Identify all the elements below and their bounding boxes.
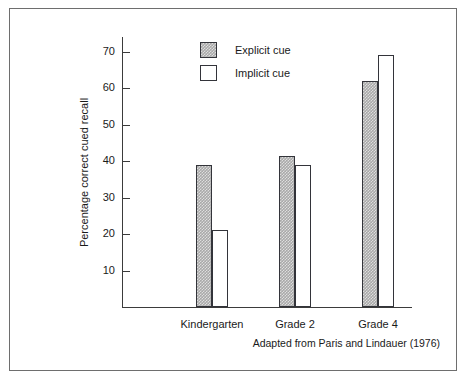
source-note: Adapted from Paris and Lindauer (1976) xyxy=(253,336,440,350)
y-tick-label: 20 xyxy=(103,226,115,241)
figure-frame: Percentage correct cued recall Explicit … xyxy=(9,8,457,371)
x-axis-line xyxy=(122,307,412,308)
y-tick-label: 60 xyxy=(103,80,115,95)
bar-grade-2-implicit xyxy=(295,165,311,307)
bar-grade-2-explicit xyxy=(279,156,295,307)
y-tick-label: 30 xyxy=(103,190,115,205)
y-axis-title: Percentage correct cued recall xyxy=(76,37,92,308)
y-tick-30: 30 xyxy=(122,198,130,199)
y-tick-10: 10 xyxy=(122,271,130,272)
bar-grade-4-implicit xyxy=(378,55,394,307)
y-tick-label: 40 xyxy=(103,153,115,168)
x-label-kindergarten: Kindergarten xyxy=(181,317,244,331)
y-tick-50: 50 xyxy=(122,125,130,126)
y-tick-mark xyxy=(123,161,130,162)
y-tick-mark xyxy=(123,198,130,199)
plot-area: 10203040506070 KindergartenGrade 2Grade … xyxy=(122,37,412,308)
y-tick-label: 10 xyxy=(103,263,115,278)
bar-group-kindergarten xyxy=(196,37,228,307)
y-tick-mark xyxy=(123,125,130,126)
y-tick-mark xyxy=(123,52,130,53)
y-tick-40: 40 xyxy=(122,161,130,162)
y-tick-mark xyxy=(123,234,130,235)
y-tick-mark xyxy=(123,271,130,272)
x-label-grade-2: Grade 2 xyxy=(275,317,315,331)
bar-grade-4-explicit xyxy=(362,81,378,307)
y-tick-label: 70 xyxy=(103,44,115,59)
bar-kindergarten-implicit xyxy=(212,230,228,307)
x-label-grade-4: Grade 4 xyxy=(358,317,398,331)
y-tick-70: 70 xyxy=(122,52,130,53)
y-tick-60: 60 xyxy=(122,88,130,89)
bar-group-grade-4 xyxy=(362,37,394,307)
y-tick-20: 20 xyxy=(122,234,130,235)
y-tick-label: 50 xyxy=(103,117,115,132)
bar-group-grade-2 xyxy=(279,37,311,307)
y-axis-line xyxy=(122,37,123,308)
y-tick-mark xyxy=(123,88,130,89)
bar-kindergarten-explicit xyxy=(196,165,212,307)
